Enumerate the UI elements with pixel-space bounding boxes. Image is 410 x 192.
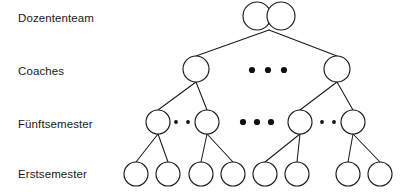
node-circle-erstsemester-8[interactable] [368, 162, 392, 186]
row-label-fuenftsemester: Fünftsemester [18, 118, 93, 130]
ellipsis-dot-fuenftsemester-6 [320, 120, 324, 124]
edge-line [269, 30, 337, 56]
node-circle-coaches-2[interactable] [324, 56, 350, 82]
edge-line [158, 134, 168, 162]
node-circle-erstsemester-2[interactable] [156, 162, 180, 186]
ellipsis-dot-fuenftsemester-5 [268, 119, 274, 125]
edge-line [201, 134, 207, 162]
node-circle-erstsemester-7[interactable] [336, 162, 360, 186]
node-circle-fuenftsemester-1[interactable] [146, 110, 170, 134]
ellipsis-dot-coaches-3 [281, 67, 287, 73]
ellipsis-dot-fuenftsemester-4 [254, 119, 260, 125]
diagram-canvas: DozententeamCoachesFünftsemesterErstseme… [0, 0, 410, 192]
node-circle-erstsemester-1[interactable] [124, 162, 148, 186]
node-circle-erstsemester-5[interactable] [253, 162, 277, 186]
nodes-group [124, 2, 392, 186]
node-circle-fuenftsemester-3[interactable] [288, 110, 312, 134]
node-circle-erstsemester-6[interactable] [285, 162, 309, 186]
edge-line [196, 30, 269, 56]
edge-line [300, 82, 337, 110]
ellipsis-dot-fuenftsemester-7 [332, 120, 336, 124]
edge-line [158, 82, 196, 110]
ellipsis-dot-fuenftsemester-3 [240, 119, 246, 125]
edge-line [337, 82, 353, 110]
node-circle-coaches-1[interactable] [183, 56, 209, 82]
ellipsis-dot-coaches-2 [265, 67, 271, 73]
node-circle-fuenftsemester-2[interactable] [195, 110, 219, 134]
hierarchy-tree-diagram: DozententeamCoachesFünftsemesterErstseme… [0, 0, 410, 192]
edge-line [265, 134, 300, 162]
ellipsis-dot-fuenftsemester-2 [186, 120, 190, 124]
row-label-dozententeam: Dozententeam [18, 12, 94, 24]
row-label-coaches: Coaches [18, 65, 64, 77]
edges-group [136, 30, 380, 162]
edge-line [297, 134, 300, 162]
edge-line [348, 134, 353, 162]
ellipsis-dot-coaches-1 [249, 67, 255, 73]
row-label-erstsemester: Erstsemester [18, 168, 87, 180]
node-circle-erstsemester-3[interactable] [189, 162, 213, 186]
node-circle-erstsemester-4[interactable] [221, 162, 245, 186]
row-labels-group: DozententeamCoachesFünftsemesterErstseme… [18, 12, 94, 180]
node-circle-dozententeam-2[interactable] [267, 2, 295, 30]
edge-line [136, 134, 158, 162]
node-circle-fuenftsemester-4[interactable] [341, 110, 365, 134]
edge-line [196, 82, 207, 110]
ellipsis-dot-fuenftsemester-1 [174, 120, 178, 124]
edge-line [353, 134, 380, 162]
edge-line [207, 134, 233, 162]
